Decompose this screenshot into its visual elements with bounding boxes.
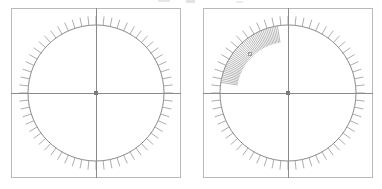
left-polar-panel-center-dot bbox=[94, 91, 98, 95]
right-polar-panel-plot bbox=[203, 8, 373, 178]
right-polar-panel-center-dot bbox=[286, 91, 290, 95]
panel-left-container bbox=[11, 8, 181, 178]
top-edge-artifacts bbox=[0, 0, 382, 8]
panel-right-container bbox=[203, 8, 373, 178]
figure-root bbox=[0, 0, 382, 189]
left-polar-panel-plot bbox=[11, 8, 181, 178]
